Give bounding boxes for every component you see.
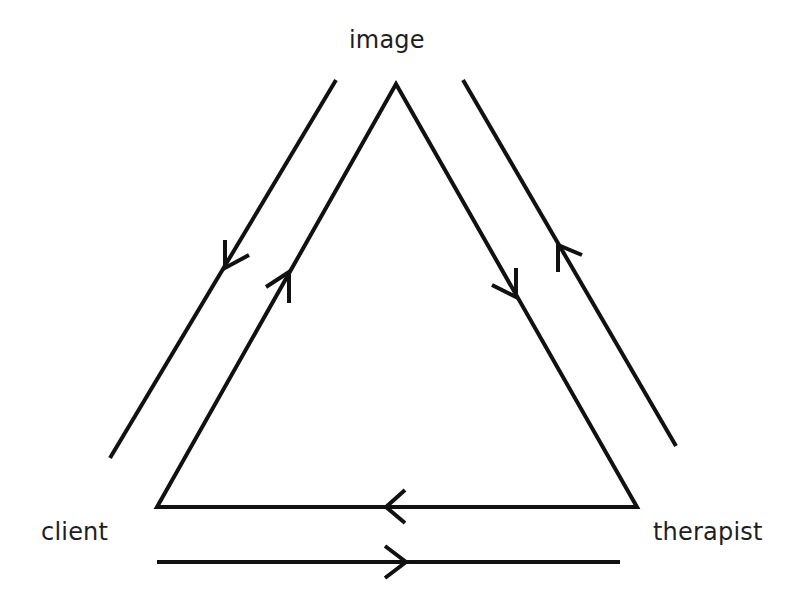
node-label-therapist: therapist — [653, 518, 763, 546]
diagram-canvas: image client therapist — [0, 0, 795, 608]
node-label-image: image — [349, 26, 425, 54]
node-label-client: client — [41, 518, 108, 546]
triangle-outline — [157, 84, 637, 507]
triangle-diagram — [0, 0, 795, 608]
